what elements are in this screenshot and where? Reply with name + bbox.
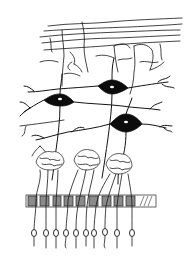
glomerulus-3 — [106, 153, 132, 174]
cribriform-band — [26, 195, 156, 207]
neuron-diagram — [0, 0, 196, 265]
illustration-canvas — [0, 0, 196, 265]
receptor-neuron-layer — [32, 229, 135, 249]
glomerular-layer — [36, 149, 132, 174]
glomerulus-2 — [74, 149, 100, 170]
glomerulus-1 — [36, 151, 64, 170]
